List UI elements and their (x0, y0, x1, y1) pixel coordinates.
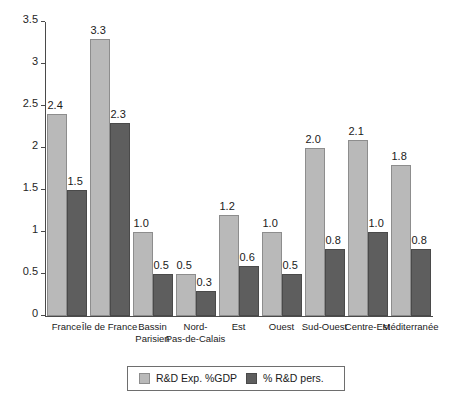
bar-group: 1.00.5 (262, 22, 302, 316)
legend-swatch-icon-series-1 (246, 373, 257, 384)
legend-label-series-0: R&D Exp. %GDP (156, 372, 237, 384)
bar (239, 266, 259, 316)
bar-group: 2.11.0 (348, 22, 388, 316)
bar-value-label: 3.3 (91, 25, 117, 36)
y-axis-tick-label: 2.5 (23, 98, 38, 109)
bar-value-label: 0.5 (177, 260, 203, 271)
bar-group: 2.41.5 (47, 22, 87, 316)
bar-value-label: 2.0 (306, 134, 332, 145)
y-axis-tick-mark (41, 273, 45, 274)
bar-group: 1.20.6 (219, 22, 259, 316)
y-axis-tick-mark (41, 231, 45, 232)
x-axis-category-label: Méditerranée (377, 321, 445, 333)
bar-group: 1.00.5 (133, 22, 173, 316)
bar-group: 3.32.3 (90, 22, 130, 316)
bar (90, 39, 110, 316)
y-axis-tick-label: 3 (32, 56, 38, 67)
bar (411, 249, 431, 316)
legend-swatch-icon-series-0 (139, 373, 150, 384)
bar (47, 114, 67, 316)
bar-value-label: 1.2 (220, 201, 246, 212)
bar (219, 215, 239, 316)
y-axis-tick-label: 0.5 (23, 266, 38, 277)
bar-group: 0.50.3 (176, 22, 216, 316)
y-axis-tick-label: 1.5 (23, 182, 38, 193)
y-axis-tick-mark (41, 315, 45, 316)
y-axis-tick-mark (41, 63, 45, 64)
y-axis-tick-label: 3.5 (23, 14, 38, 25)
y-axis-tick-label: 0 (32, 308, 38, 319)
bar (133, 232, 153, 316)
bar (262, 232, 282, 316)
y-axis-tick-label: 2 (32, 140, 38, 151)
bar-value-label: 1.0 (134, 218, 160, 229)
legend-entry-r-and-d-exp-gdp: R&D Exp. %GDP (139, 372, 237, 384)
bar-value-label: 2.4 (48, 100, 74, 111)
y-axis-tick-mark (41, 189, 45, 190)
bar (196, 291, 216, 316)
x-axis-line (45, 316, 433, 317)
bar-value-label: 2.1 (349, 126, 375, 137)
y-axis-tick-mark (41, 147, 45, 148)
plot-area: 2.41.53.32.31.00.50.50.31.20.61.00.52.00… (45, 22, 432, 316)
bar (153, 274, 173, 316)
bar (348, 140, 368, 316)
bar-group: 1.80.8 (391, 22, 431, 316)
y-axis-tick-mark (41, 21, 45, 22)
bar-value-label: 0.8 (412, 235, 438, 246)
legend-label-series-1: % R&D pers. (263, 372, 324, 384)
bar (282, 274, 302, 316)
bar-value-label: 1.8 (392, 151, 418, 162)
bar (110, 123, 130, 316)
bar-group: 2.00.8 (305, 22, 345, 316)
bar (325, 249, 345, 316)
bar (305, 148, 325, 316)
bar (176, 274, 196, 316)
bar (67, 190, 87, 316)
bar-chart: 2.41.53.32.31.00.50.50.31.20.61.00.52.00… (0, 0, 450, 407)
bar (368, 232, 388, 316)
chart-legend: R&D Exp. %GDP % R&D pers. (127, 366, 345, 391)
bar (391, 165, 411, 316)
bar-value-label: 1.0 (263, 218, 289, 229)
y-axis-tick-mark (41, 105, 45, 106)
legend-entry-r-and-d-pers: % R&D pers. (246, 372, 324, 384)
y-axis-tick-label: 1 (32, 224, 38, 235)
